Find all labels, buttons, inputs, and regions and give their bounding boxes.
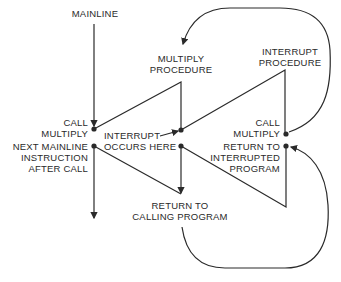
label-line: PROCEDURE: [255, 57, 325, 68]
label-return-calling: RETURN TO CALLING PROGRAM: [130, 200, 230, 222]
call-multiply-node: [91, 126, 96, 131]
label-multiply-procedure: MULTIPLY PROCEDURE: [146, 53, 216, 75]
label-line: MULTIPLY: [146, 53, 216, 64]
label-line: MULTIPLY: [222, 128, 280, 139]
label-line: MAINLINE: [70, 8, 120, 19]
label-interrupt-occurs: INTERRUPT OCCURS HERE: [104, 130, 176, 152]
multiply-path: [94, 82, 181, 130]
label-line: INTERRUPTED: [200, 152, 280, 163]
label-call-multiply-left: CALL MULTIPLY: [30, 117, 88, 139]
diagram-canvas: MAINLINE MULTIPLY PROCEDURE INTERRUPT PR…: [0, 0, 341, 282]
label-line: RETURN TO: [200, 141, 280, 152]
label-line: INSTRUCTION: [2, 152, 88, 163]
label-interrupt-procedure: INTERRUPT PROCEDURE: [255, 46, 325, 68]
label-line: MULTIPLY: [30, 128, 88, 139]
label-return-interrupted: RETURN TO INTERRUPTED PROGRAM: [200, 141, 280, 174]
label-line: INTERRUPT: [255, 46, 325, 57]
label-line: CALLING PROGRAM: [130, 211, 230, 222]
label-line: NEXT MAINLINE: [2, 141, 88, 152]
label-line: RETURN TO: [130, 200, 230, 211]
return-calling-diag: [94, 146, 181, 194]
next-mainline-node: [91, 143, 96, 148]
label-call-multiply-right: CALL MULTIPLY: [222, 117, 280, 139]
return-node: [178, 143, 183, 148]
call-multiply-right-node: [283, 131, 288, 136]
label-line: OCCURS HERE: [104, 141, 176, 152]
label-line: CALL: [222, 117, 280, 128]
interrupt-occurs-node: [178, 127, 183, 132]
return-interrupted-node: [283, 143, 288, 148]
label-line: PROGRAM: [200, 163, 280, 174]
label-mainline: MAINLINE: [70, 8, 120, 19]
label-next-mainline: NEXT MAINLINE INSTRUCTION AFTER CALL: [2, 141, 88, 174]
label-line: INTERRUPT: [104, 130, 176, 141]
label-line: PROCEDURE: [146, 64, 216, 75]
label-line: CALL: [30, 117, 88, 128]
label-line: AFTER CALL: [2, 163, 88, 174]
